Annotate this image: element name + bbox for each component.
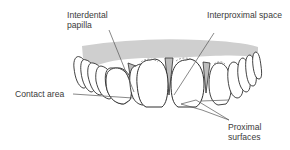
label-interproximal-space: Interproximal space — [207, 10, 282, 20]
label-proximal-line1: Proximal — [228, 122, 261, 132]
left-central-incisor — [137, 59, 168, 107]
right-central-incisor — [171, 59, 204, 107]
label-papilla-line1: Interdental — [67, 10, 108, 20]
right-posterior-teeth — [228, 52, 262, 98]
label-interdental-papilla: Interdental papilla — [67, 10, 108, 30]
label-proximal-surfaces: Proximal surfaces — [228, 122, 261, 142]
label-proximal-line2: surfaces — [228, 132, 261, 142]
label-contact-area: Contact area — [15, 89, 64, 99]
label-papilla-line2: papilla — [67, 20, 108, 30]
